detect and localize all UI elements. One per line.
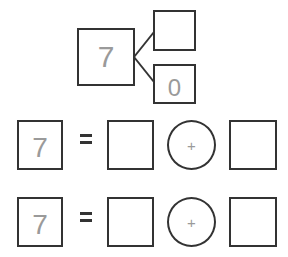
bond-whole-box[interactable]: 7: [77, 28, 135, 86]
equation-2-addend2-box[interactable]: [229, 197, 277, 247]
bond-part-top-box[interactable]: [153, 10, 196, 51]
equation-2-operator-circle[interactable]: +: [167, 197, 216, 247]
equation-2-addend1-box[interactable]: [107, 197, 154, 247]
equation-1-total-box[interactable]: 7: [17, 120, 63, 170]
equation-1-addend1-box[interactable]: [107, 120, 154, 170]
equation-2-total-box[interactable]: 7: [17, 197, 63, 247]
bond-part-bottom-box[interactable]: 0: [153, 64, 196, 104]
equation-1-operator-circle[interactable]: +: [167, 120, 216, 170]
bond-whole-value: 7: [98, 40, 115, 74]
plus-icon: +: [187, 214, 196, 231]
equals-sign-icon: [80, 212, 92, 222]
equation-2-total: 7: [32, 209, 48, 241]
equals-sign-icon: [80, 134, 92, 144]
equation-1-addend2-box[interactable]: [229, 120, 277, 170]
equation-1-total: 7: [32, 132, 48, 164]
bond-part-bottom-value: 0: [168, 74, 181, 102]
plus-icon: +: [187, 137, 196, 154]
